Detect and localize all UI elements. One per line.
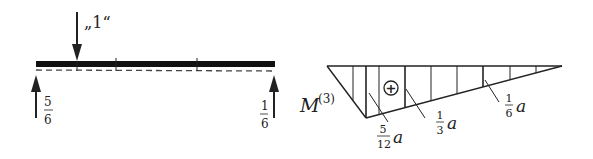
left-reaction-arrow: 5 6 (31, 75, 53, 127)
moment-value-1-3: 1 3 a (436, 109, 457, 137)
load-label: „1“ (84, 13, 111, 32)
moment-label: M (299, 94, 320, 116)
svg-text:3: 3 (437, 124, 444, 137)
svg-text:5: 5 (380, 123, 387, 136)
svg-text:1: 1 (437, 109, 444, 122)
svg-text:a: a (447, 113, 457, 133)
moment-label-sup: (3) (318, 92, 335, 106)
beam-bar (36, 61, 275, 67)
svg-text:a: a (393, 127, 403, 147)
load-arrow: „1“ (72, 12, 111, 61)
diagram: „1“ 5 6 1 6 + M (3) 5 12 a (0, 0, 593, 159)
beam-dashed-fiber (36, 70, 275, 71)
svg-text:12: 12 (377, 138, 391, 151)
left-reaction-den: 6 (44, 113, 52, 127)
positive-sign: + (386, 81, 397, 96)
right-reaction-num: 1 (261, 99, 269, 113)
moment-value-1-6: 1 6 a (505, 92, 526, 120)
svg-text:a: a (516, 96, 526, 116)
moment-value-5-12: 5 12 a (377, 123, 403, 151)
left-reaction-num: 5 (44, 95, 52, 109)
svg-text:6: 6 (506, 107, 513, 120)
beam (36, 58, 275, 71)
right-reaction-arrow: 1 6 (260, 75, 279, 131)
right-reaction-den: 6 (261, 117, 269, 131)
svg-text:1: 1 (506, 92, 513, 105)
moment-diagram: + M (3) 5 12 a 1 3 a 1 6 a (299, 66, 562, 151)
